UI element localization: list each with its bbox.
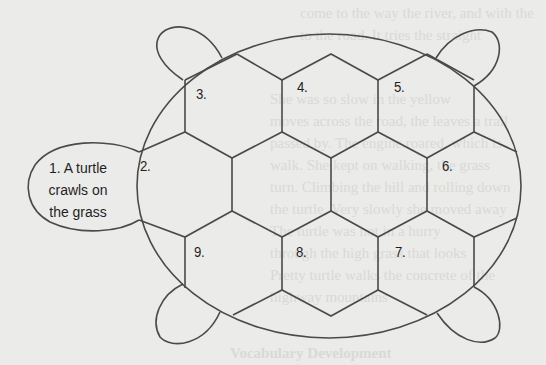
segment-8-label: 8. [296, 243, 306, 261]
turtle-shell [137, 34, 521, 338]
leg-top-right [436, 30, 499, 86]
segment-3-label: 3. [196, 85, 206, 103]
segment-5-label: 5. [394, 78, 404, 96]
turtle-legs [156, 27, 500, 344]
leg-top-left [157, 27, 222, 80]
worksheet-page: come to the way the river, and with the … [0, 0, 546, 365]
segment-9-label: 9. [194, 243, 204, 261]
leg-bottom-right [437, 287, 500, 342]
segment-6-label: 6. [442, 157, 452, 175]
segment-2-label: 2. [140, 157, 150, 175]
segment-1-text: 1. A turtle crawls on the grass [18, 157, 138, 223]
leg-bottom-left [156, 284, 220, 344]
segment-4-label: 4. [297, 78, 307, 96]
segment-7-label: 7. [395, 243, 405, 261]
